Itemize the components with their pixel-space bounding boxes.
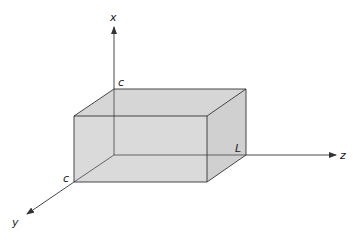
y-axis-label: y	[11, 216, 19, 229]
x-axis-label: x	[109, 11, 117, 24]
height-label: c	[118, 76, 124, 89]
box-diagram: x y z c c L	[0, 0, 353, 240]
length-label: L	[235, 142, 241, 155]
z-axis-label: z	[339, 149, 346, 162]
box	[74, 89, 246, 182]
box-front-face	[74, 116, 207, 182]
y-axis	[27, 182, 74, 214]
depth-label: c	[63, 172, 69, 185]
